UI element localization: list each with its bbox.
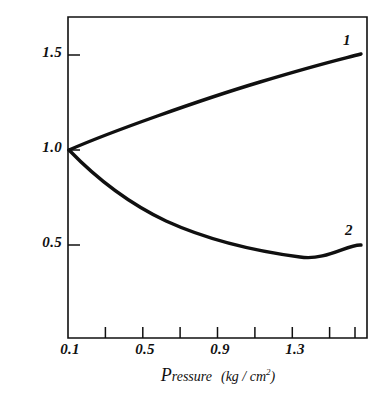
x-axis-units-close: ) (271, 369, 276, 384)
x-tick-label-0-9: 0.9 (200, 341, 240, 358)
y-tick-label-1-5: 1.5 (20, 44, 62, 61)
x-tick-label-0-5: 0.5 (125, 341, 165, 358)
curve-label-2: 2 (345, 222, 353, 239)
x-axis-title-word: ressure (172, 369, 212, 384)
series-curve-2 (69, 150, 361, 258)
x-tick-label-0-1: 0.1 (50, 341, 90, 358)
x-axis-title: Pressure(kg / cm2) (68, 365, 368, 386)
y-tick-label-1-0: 1.0 (20, 139, 62, 156)
series-curve-1 (69, 54, 361, 150)
figure-container: 1.5 1.0 0.5 0.1 0.5 0.9 1.3 1 2 Relative… (0, 0, 390, 409)
x-axis-ticks (105, 327, 355, 338)
curve-label-1: 1 (343, 32, 351, 49)
x-tick-label-1-3: 1.3 (275, 341, 315, 358)
y-tick-label-0-5: 0.5 (20, 234, 62, 251)
x-axis-title-p: P (161, 365, 172, 385)
x-axis-units: kg / cm (226, 369, 266, 384)
